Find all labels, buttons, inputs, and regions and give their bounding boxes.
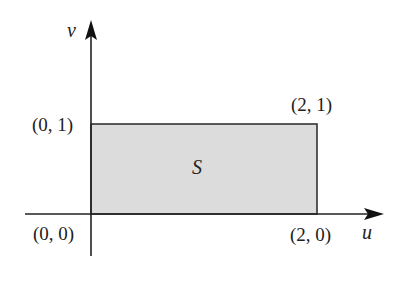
v-axis-label: v	[67, 19, 76, 41]
vertex-label-origin: (0, 0)	[33, 223, 74, 245]
uv-plane-diagram: v u S (0, 1) (2, 1) (0, 0) (2, 0)	[0, 0, 408, 281]
vertex-label-bottom-right: (2, 0)	[290, 224, 331, 246]
vertex-label-top-left: (0, 1)	[32, 114, 73, 136]
vertex-label-top-right: (2, 1)	[291, 94, 332, 116]
u-axis-label: u	[362, 221, 372, 243]
region-s-label: S	[192, 156, 202, 178]
region-s-fill	[91, 124, 317, 214]
